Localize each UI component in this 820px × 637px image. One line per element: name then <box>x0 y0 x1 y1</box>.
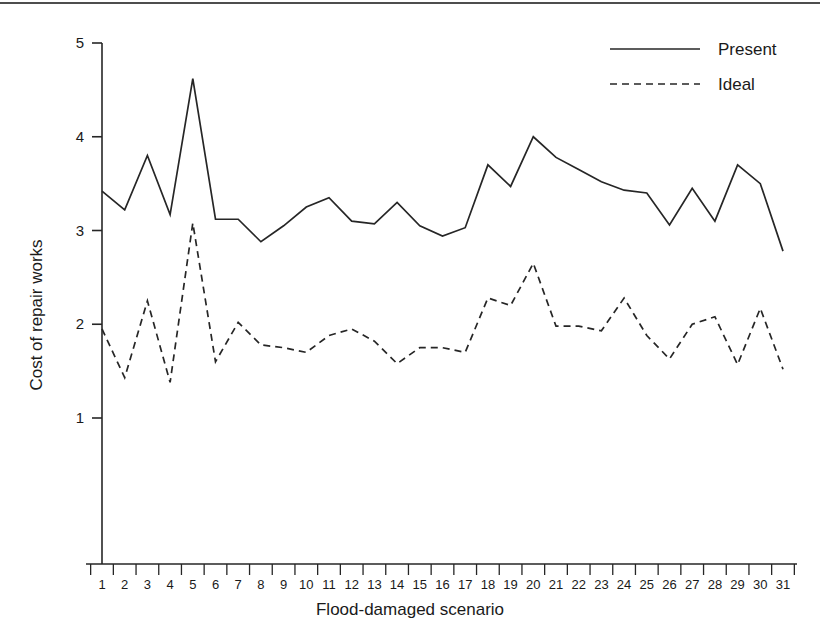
y-tick-label: 3 <box>76 222 84 239</box>
x-tick-label: 25 <box>640 577 654 592</box>
x-tick-label: 6 <box>212 577 219 592</box>
x-tick-label: 24 <box>617 577 631 592</box>
y-axis-title: Cost of repair works <box>27 239 46 390</box>
x-axis-title: Flood-damaged scenario <box>316 600 504 619</box>
y-axis-ticks: 12345 <box>76 34 102 426</box>
y-tick-label: 4 <box>76 128 84 145</box>
x-tick-label: 1 <box>98 577 105 592</box>
x-tick-label: 3 <box>144 577 151 592</box>
series-line-present <box>102 79 783 252</box>
y-tick-label: 5 <box>76 34 84 51</box>
x-tick-label: 8 <box>257 577 264 592</box>
series-line-ideal <box>102 223 783 382</box>
x-tick-label: 26 <box>662 577 676 592</box>
x-tick-label: 22 <box>571 577 585 592</box>
x-tick-label: 15 <box>413 577 427 592</box>
x-tick-label: 11 <box>322 577 336 592</box>
x-tick-label: 29 <box>730 577 744 592</box>
figure-container: 12345 1234567891011121314151617181920212… <box>0 0 820 637</box>
x-tick-label: 23 <box>594 577 608 592</box>
x-tick-label: 27 <box>685 577 699 592</box>
x-tick-label: 9 <box>280 577 287 592</box>
legend-label-present: Present <box>718 40 777 59</box>
x-tick-label: 7 <box>235 577 242 592</box>
series-group <box>102 79 783 383</box>
legend-label-ideal: Ideal <box>718 75 755 94</box>
x-tick-label: 16 <box>435 577 449 592</box>
chart-legend: Present Ideal <box>610 40 777 94</box>
x-tick-label: 30 <box>753 577 767 592</box>
x-tick-label: 12 <box>344 577 358 592</box>
line-chart: 12345 1234567891011121314151617181920212… <box>0 0 820 637</box>
x-tick-label: 31 <box>776 577 790 592</box>
x-tick-label: 14 <box>390 577 404 592</box>
x-tick-label: 19 <box>503 577 517 592</box>
x-tick-label: 18 <box>481 577 495 592</box>
x-tick-label: 2 <box>121 577 128 592</box>
x-tick-label: 17 <box>458 577 472 592</box>
y-tick-label: 1 <box>76 409 84 426</box>
x-tick-label: 20 <box>526 577 540 592</box>
x-axis-tick-labels: 1234567891011121314151617181920212223242… <box>98 577 790 592</box>
x-tick-label: 4 <box>166 577 173 592</box>
x-tick-label: 28 <box>708 577 722 592</box>
y-tick-label: 2 <box>76 315 84 332</box>
x-tick-label: 13 <box>367 577 381 592</box>
x-tick-label: 5 <box>189 577 196 592</box>
x-tick-label: 21 <box>549 577 563 592</box>
x-tick-label: 10 <box>299 577 313 592</box>
x-axis-ticks <box>91 564 795 575</box>
